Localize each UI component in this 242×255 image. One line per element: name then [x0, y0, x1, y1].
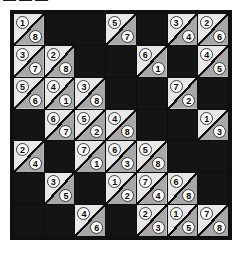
puzzle-cell-blocked — [75, 14, 105, 45]
cell-bottom-number: 7 — [29, 62, 42, 75]
puzzle-cell-filled[interactable]: 38 — [75, 78, 105, 109]
puzzle-cell-blocked — [106, 78, 136, 109]
puzzle-cell-filled[interactable]: 57 — [106, 14, 136, 45]
cell-top-number: 6 — [47, 112, 60, 125]
puzzle-cell-filled[interactable]: 68 — [168, 173, 198, 204]
puzzle-cell-blocked — [14, 205, 44, 236]
puzzle-cell-filled[interactable]: 46 — [75, 205, 105, 236]
puzzle-cell-blocked — [137, 110, 167, 141]
puzzle-cell-blocked — [45, 14, 75, 45]
cell-top-number: 4 — [47, 80, 60, 93]
puzzle-cell-blocked — [14, 110, 44, 141]
cell-top-number: 3 — [16, 48, 29, 61]
cell-bottom-number: 8 — [90, 94, 103, 107]
puzzle-cell-filled[interactable]: 58 — [137, 141, 167, 172]
cell-bottom-number: 8 — [152, 157, 165, 170]
puzzle-cell-filled[interactable]: 26 — [198, 14, 228, 45]
puzzle-cell-blocked — [14, 173, 44, 204]
puzzle-cell-filled[interactable]: 63 — [106, 141, 136, 172]
puzzle-cell-blocked — [168, 110, 198, 141]
cell-top-number: 1 — [16, 16, 29, 29]
cell-top-number: 3 — [170, 16, 183, 29]
puzzle-grid[interactable]: 1857342637286145564138726752481324716358… — [10, 10, 232, 240]
cell-bottom-number: 7 — [121, 30, 134, 43]
cell-top-number: 5 — [16, 80, 29, 93]
cell-top-number: 6 — [170, 175, 183, 188]
cropped-header-glyphs: ▬▬▬ — [0, 0, 242, 1]
puzzle-cell-blocked — [198, 78, 228, 109]
puzzle-cell-filled[interactable]: 52 — [75, 110, 105, 141]
cell-top-number: 5 — [77, 112, 90, 125]
puzzle-cell-filled[interactable]: 34 — [168, 14, 198, 45]
cell-bottom-number: 8 — [29, 30, 42, 43]
cell-bottom-number: 6 — [29, 94, 42, 107]
cell-bottom-number: 1 — [152, 62, 165, 75]
puzzle-cell-filled[interactable]: 12 — [106, 173, 136, 204]
puzzle-cell-filled[interactable]: 78 — [198, 205, 228, 236]
puzzle-cell-filled[interactable]: 24 — [14, 141, 44, 172]
puzzle-cell-blocked — [168, 141, 198, 172]
puzzle-cell-filled[interactable]: 48 — [106, 110, 136, 141]
puzzle-cell-filled[interactable]: 71 — [75, 141, 105, 172]
puzzle-cell-filled[interactable]: 41 — [45, 78, 75, 109]
puzzle-cell-filled[interactable]: 28 — [45, 46, 75, 77]
puzzle-cell-filled[interactable]: 37 — [14, 46, 44, 77]
cropped-header-text: ▬▬▬ — [0, 0, 242, 8]
cell-bottom-number: 4 — [29, 157, 42, 170]
puzzle-cell-filled[interactable]: 74 — [137, 173, 167, 204]
puzzle-cell-filled[interactable]: 18 — [14, 14, 44, 45]
cell-bottom-number: 5 — [213, 62, 226, 75]
puzzle-cell-blocked — [137, 78, 167, 109]
cell-bottom-number: 3 — [152, 221, 165, 234]
cell-top-number: 4 — [108, 112, 121, 125]
cell-top-number: 1 — [200, 112, 213, 125]
puzzle-cell-blocked — [45, 205, 75, 236]
puzzle-cell-blocked — [106, 205, 136, 236]
puzzle-cell-filled[interactable]: 67 — [45, 110, 75, 141]
puzzle-cell-filled[interactable]: 61 — [137, 46, 167, 77]
cell-top-number: 2 — [139, 207, 152, 220]
puzzle-cell-blocked — [106, 46, 136, 77]
puzzle-cell-blocked — [75, 173, 105, 204]
cell-top-number: 3 — [47, 175, 60, 188]
puzzle-cell-blocked — [137, 14, 167, 45]
cell-bottom-number: 1 — [59, 94, 72, 107]
puzzle-cell-filled[interactable]: 45 — [198, 46, 228, 77]
cell-bottom-number: 8 — [213, 221, 226, 234]
puzzle-cell-blocked — [75, 46, 105, 77]
cell-top-number: 6 — [139, 48, 152, 61]
puzzle-cell-filled[interactable]: 23 — [137, 205, 167, 236]
puzzle-cell-blocked — [198, 141, 228, 172]
puzzle-cell-filled[interactable]: 13 — [198, 110, 228, 141]
puzzle-cell-filled[interactable]: 56 — [14, 78, 44, 109]
cell-bottom-number: 2 — [182, 94, 195, 107]
cell-bottom-number: 2 — [121, 189, 134, 202]
cell-top-number: 7 — [170, 80, 183, 93]
puzzle-cell-blocked — [198, 173, 228, 204]
cell-top-number: 2 — [47, 48, 60, 61]
puzzle-cell-blocked — [45, 141, 75, 172]
puzzle-cell-blocked — [168, 46, 198, 77]
puzzle-cell-filled[interactable]: 35 — [45, 173, 75, 204]
cell-top-number: 1 — [170, 207, 183, 220]
puzzle-cell-filled[interactable]: 72 — [168, 78, 198, 109]
cell-bottom-number: 6 — [213, 30, 226, 43]
puzzle-cell-filled[interactable]: 15 — [168, 205, 198, 236]
cell-bottom-number: 4 — [152, 189, 165, 202]
